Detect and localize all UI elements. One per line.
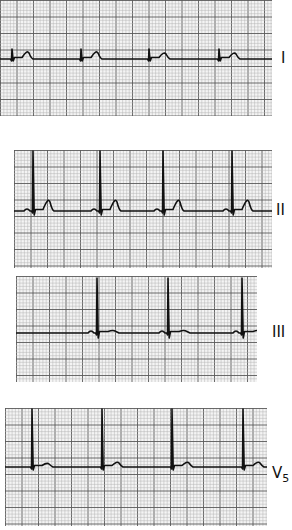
ecg-grid-paper (5, 408, 267, 526)
lead-label-ii: II (276, 203, 285, 218)
ecg-grid-paper (14, 150, 272, 268)
ecg-strip-lead-iii (16, 276, 257, 382)
ecg-grid-paper (16, 276, 257, 382)
ecg-strip-lead-ii (14, 150, 272, 268)
lead-label-i: I (281, 51, 285, 66)
ecg-strip-lead-v5 (5, 408, 267, 526)
ecg-strip-lead-i (0, 0, 272, 116)
lead-label-v5: V5 (272, 466, 289, 484)
lead-label-iii: III (272, 325, 285, 340)
ecg-grid-paper (0, 0, 272, 116)
